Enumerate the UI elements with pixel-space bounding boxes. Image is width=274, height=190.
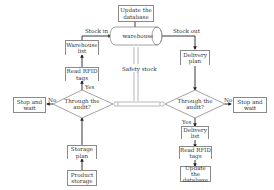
left-stop-wait: Stop and wait — [13, 97, 46, 113]
left-decision: Through the audit? — [62, 98, 102, 110]
left-yes-label: Yes — [85, 84, 94, 90]
connectors — [0, 0, 274, 190]
safety-stock-label: Safety stock — [122, 66, 157, 72]
right-decision: Through the audit? — [175, 98, 215, 110]
warehouse-label: warehouse — [118, 33, 158, 39]
delivery-plan: Delivery plan — [180, 50, 210, 65]
stock-out-label: Stock out — [173, 28, 200, 34]
right-stop-wait: Stop and wait — [233, 97, 267, 113]
left-no-label: No — [48, 97, 56, 103]
product-storage: Product storage — [67, 170, 97, 186]
warehouse-list: Warehouse list — [65, 40, 99, 55]
update-database-bottom: Update the database — [180, 166, 211, 182]
right-yes-label: Yes — [182, 119, 191, 125]
left-read-rfid: Read RFID tags — [65, 67, 99, 81]
storage-plan: Storage plan — [67, 145, 97, 159]
right-read-rfid: Read RFID tags — [179, 146, 212, 159]
delivery-list: Delivery list — [181, 126, 209, 139]
right-no-label: No — [224, 97, 232, 103]
stock-in-label: Stock in — [85, 28, 108, 34]
update-database-top: Update the database — [118, 5, 154, 22]
